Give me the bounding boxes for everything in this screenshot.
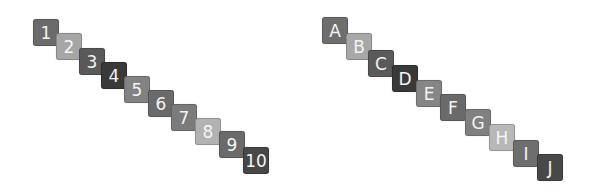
letter-tile: C (368, 50, 394, 77)
letter-tile: H (489, 124, 515, 151)
tile-label: E (417, 81, 441, 107)
tile-label: J (538, 155, 562, 181)
tile-label: A (323, 18, 347, 44)
letter-tile: A (322, 17, 348, 44)
tile-label: F (441, 95, 465, 121)
letter-tile: I (513, 140, 539, 167)
letter-tile: D (392, 65, 418, 92)
tile-label: D (393, 66, 417, 92)
letter-tile: G (465, 109, 491, 136)
tile-label: C (369, 51, 393, 77)
tile-label: G (466, 110, 490, 136)
tile-label: H (490, 125, 514, 151)
letter-tile: E (416, 80, 442, 107)
tile-label: I (514, 141, 538, 167)
letter-tiles-sequence: ABCDEFGHIJ (0, 0, 592, 196)
letter-tile: F (440, 94, 466, 121)
letter-tile: J (537, 154, 563, 181)
